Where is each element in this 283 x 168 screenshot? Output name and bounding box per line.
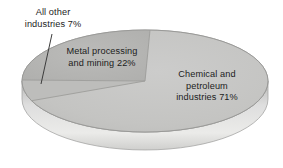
slice-label-metal-processing-and-mining: Metal processing and mining 22% [54, 46, 150, 69]
slice-label-all-other-industries: All other industries 7% [6, 7, 100, 30]
pie-chart-figure: All other industries 7% Metal processing… [0, 0, 283, 168]
slice-label-chemical-and-petroleum-industries: Chemical and petroleum industries 71% [155, 69, 259, 104]
pie-chart-screenshot: All other industries 7% Metal processing… [0, 0, 283, 168]
